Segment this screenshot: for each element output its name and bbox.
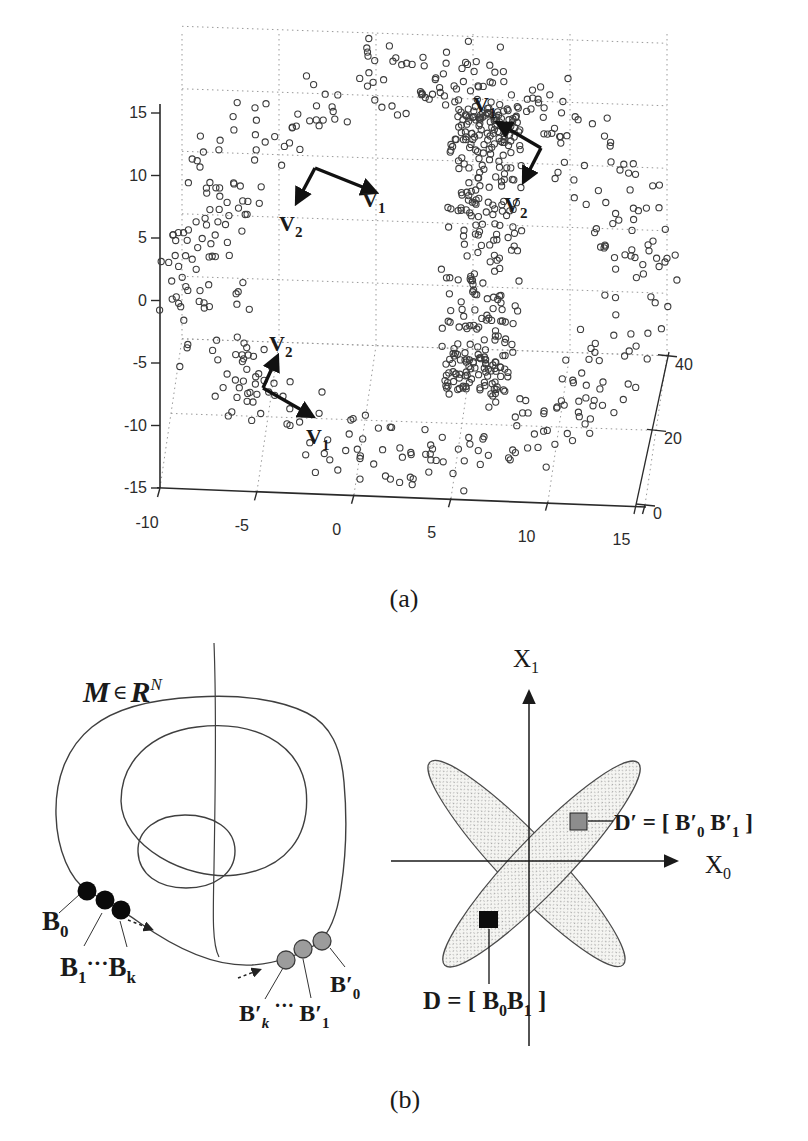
scatter-point (370, 79, 376, 85)
scatter-point (386, 43, 392, 49)
leader-b1 (84, 913, 102, 946)
scatter-point (455, 446, 461, 452)
scatter-point (519, 228, 525, 234)
scatter-point (448, 308, 454, 314)
scatter-point (508, 150, 514, 156)
scatter-point (332, 116, 338, 122)
scatter-point (208, 241, 214, 247)
scatter-point (576, 398, 582, 404)
scatter-point (616, 217, 622, 223)
label-b0: B0 (42, 906, 69, 941)
anchor-point-black (96, 891, 115, 910)
anchor-point-black (112, 901, 131, 920)
scatter-point (215, 357, 221, 363)
scatter-point (560, 98, 566, 104)
scatter-point (564, 133, 570, 139)
scatter-point (439, 434, 445, 440)
scatter-point (258, 184, 264, 190)
black-coefficient-square (479, 911, 498, 928)
scatter-point (256, 200, 262, 206)
scatter-point (202, 215, 208, 221)
scatter-point (493, 174, 499, 180)
scatter-point (620, 396, 626, 402)
scatter-point (587, 416, 593, 422)
scatter-point (629, 227, 635, 233)
manifold-outer-loop (56, 696, 346, 965)
scatter-point (505, 234, 511, 240)
grid-line (182, 151, 667, 168)
scatter-point (628, 331, 634, 337)
scatter-point (656, 205, 662, 211)
scatter-point (525, 445, 531, 451)
scatter-point (240, 378, 246, 384)
scatter-point (583, 201, 589, 207)
scatter-point (467, 341, 473, 347)
scatter-point (650, 183, 656, 189)
basis-vector-label: V2 (269, 331, 292, 360)
scatter-point (271, 380, 277, 386)
scatter-point (531, 431, 537, 437)
scatter-point (281, 143, 287, 149)
scatter-point (344, 119, 350, 125)
scatter-point (597, 386, 603, 392)
scatter-point (459, 65, 465, 71)
scatter-point (475, 214, 481, 220)
scatter-point (440, 71, 446, 77)
scatter-point (372, 58, 378, 64)
scatter-point (216, 206, 222, 212)
scatter-point (252, 132, 258, 138)
scatter-point (237, 183, 243, 189)
scatter-point (658, 326, 664, 332)
scatter-point (593, 226, 599, 232)
scatter-point (185, 180, 191, 186)
scatter-point (466, 180, 472, 186)
scatter-point (420, 54, 426, 60)
scatter-point (613, 266, 619, 272)
scatter-point (645, 330, 651, 336)
scatter-point (633, 343, 639, 349)
scatter-point (422, 427, 428, 433)
label-bpk-bp1: B′k···B′1 (239, 994, 330, 1031)
manifold-set-label: M∈RN (82, 675, 164, 708)
scatter-point (461, 241, 467, 247)
scatter-point (475, 448, 481, 454)
scatter-point (486, 157, 492, 163)
scatter-point (360, 436, 366, 442)
x-tick-label: -10 (135, 514, 158, 531)
scatter-point (166, 259, 172, 265)
scatter-point (665, 303, 671, 309)
scatter-point (443, 361, 449, 367)
scatter-point (446, 291, 452, 297)
scatter-point (445, 318, 451, 324)
scatter-point (600, 379, 606, 385)
scatter-point (492, 268, 498, 274)
scatter-point (397, 445, 403, 451)
scatter-point (656, 263, 662, 269)
scatter-point (224, 199, 230, 205)
basis-vector-label: V1 (306, 424, 329, 453)
scatter-point (558, 140, 564, 146)
scatter-point (372, 97, 378, 103)
scatter-point (382, 473, 388, 479)
scatter-point (316, 410, 322, 416)
scatter-point (466, 434, 472, 440)
scatter-point (500, 69, 506, 75)
basis-vector-arrow (297, 168, 315, 202)
scatter-point (438, 266, 444, 272)
scatter-point (602, 292, 608, 298)
scatter-point (621, 161, 627, 167)
scatter-point (493, 399, 499, 405)
x-tick-label: 15 (613, 531, 631, 548)
scatter-point (611, 255, 617, 261)
scatter-point (222, 221, 228, 227)
leader-bp1 (303, 959, 311, 998)
scatter-point (429, 91, 435, 97)
scatter-point (297, 419, 303, 425)
scatter-point (490, 202, 496, 208)
scatter-point (589, 121, 595, 127)
scatter-point (561, 159, 567, 165)
scatter-point (625, 381, 631, 387)
label-d: D = [ B0B1 ] (423, 987, 546, 1019)
anchor-point-gray (313, 932, 331, 950)
scatter-point (199, 235, 205, 241)
